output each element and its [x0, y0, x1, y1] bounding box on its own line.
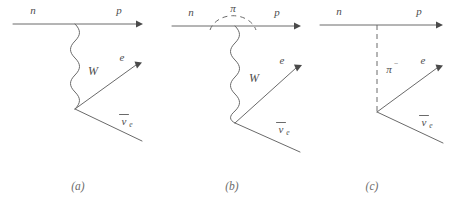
electron-line-c [377, 68, 437, 112]
label-proton-c: p [415, 5, 422, 17]
pion-loop-arc-b [210, 16, 256, 30]
antineutrino-subscript-c: e [429, 121, 433, 130]
label-electron-a: e [120, 51, 125, 63]
antineutrino-nu-c: ν [422, 116, 427, 128]
label-pion-c: π − [386, 59, 398, 75]
antineutrino-nu-b: ν [279, 123, 284, 135]
label-antineutrino-a: ν e [120, 115, 134, 129]
antineutrino-line-c [377, 112, 443, 143]
label-antineutrino-c: ν e [420, 116, 434, 130]
diagram-c: n p π − e ν e (c) [320, 5, 443, 193]
label-w-boson-b: W [249, 71, 260, 85]
w-boson-wavy-line-b [231, 26, 240, 123]
nucleon-arrowhead-b [294, 23, 301, 30]
nucleon-arrowhead-a [136, 21, 143, 28]
label-electron-b: e [280, 54, 285, 66]
label-pion-loop-b: π [230, 2, 236, 14]
label-w-boson-a: W [88, 64, 99, 78]
pion-charge-c: − [393, 59, 398, 68]
antineutrino-subscript-a: e [129, 120, 133, 129]
caption-c: (c) [366, 180, 379, 193]
electron-line-b [235, 68, 296, 123]
electron-arrowhead-b [294, 65, 302, 72]
feynman-diagram-figure: n p W e ν e (a) n p π W e [0, 0, 467, 214]
label-antineutrino-b: ν e [277, 123, 291, 137]
caption-a: (a) [71, 180, 85, 193]
electron-line-a [75, 65, 136, 109]
w-boson-wavy-line-a [71, 24, 80, 109]
antineutrino-line-b [235, 123, 300, 152]
label-proton-b: p [273, 6, 280, 18]
label-neutron-b: n [188, 6, 194, 18]
nucleon-arrowhead-c [436, 22, 443, 29]
antineutrino-subscript-b: e [286, 128, 290, 137]
label-neutron-a: n [30, 4, 36, 16]
label-neutron-c: n [336, 5, 342, 17]
label-proton-a: p [115, 4, 122, 16]
antineutrino-nu-a: ν [122, 115, 127, 127]
pion-symbol-c: π [386, 63, 392, 75]
caption-b: (b) [225, 180, 239, 193]
diagram-b: n p π W e ν e (b) [172, 2, 302, 193]
label-electron-c: e [421, 54, 426, 66]
diagram-a: n p W e ν e (a) [13, 4, 143, 193]
